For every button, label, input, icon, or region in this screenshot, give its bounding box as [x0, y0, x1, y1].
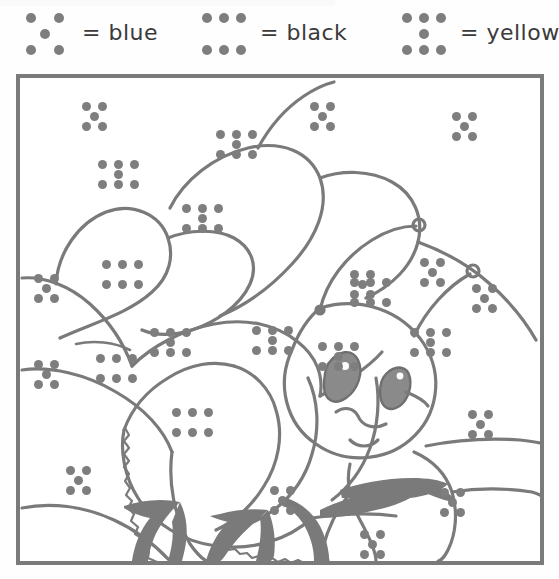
legend-entry-blue: = blue	[22, 4, 158, 60]
bee-antenna-right	[414, 274, 470, 336]
legend-label-blue: blue	[108, 20, 158, 45]
legend-dot	[419, 13, 429, 23]
legend-equals-black: = black	[260, 20, 347, 45]
legend-dot	[219, 45, 229, 55]
bee-eye-right	[380, 368, 410, 409]
legend-dot	[402, 13, 412, 23]
wing-vein-1	[216, 366, 280, 530]
bee-body-right	[414, 452, 455, 561]
worksheet-page: = blue = black = yell	[0, 0, 559, 579]
wing-vein-2	[234, 378, 317, 528]
legend-dot	[54, 45, 64, 55]
petal-edge-left-mid	[22, 278, 132, 366]
petal-outline-upper-left	[56, 208, 171, 338]
petal-edge-left-lower	[22, 369, 172, 452]
legend-dot	[219, 13, 229, 23]
bee-eye-left	[324, 352, 360, 401]
legend-dot	[436, 45, 446, 55]
bee-body-lower-band	[452, 489, 540, 495]
legend-dot	[236, 45, 246, 55]
legend-dot	[419, 29, 429, 39]
legend-equals-yellow: = yellow	[460, 20, 559, 45]
legend-dot	[54, 13, 64, 23]
six-dot-pattern-icon	[200, 7, 252, 57]
petal-edge-upper-right	[418, 242, 536, 340]
legend-label-yellow: yellow	[486, 20, 559, 45]
bee-head-outline	[284, 304, 435, 458]
bee-cheek-line	[406, 392, 428, 406]
legend-dot	[202, 45, 212, 55]
bee-line-art	[20, 78, 540, 561]
bee-eye-right-highlight	[397, 373, 404, 380]
bee-antenna-base-left	[316, 306, 324, 314]
legend-dot	[436, 13, 446, 23]
legend-dot	[236, 13, 246, 23]
wing-upper-outline	[124, 363, 234, 430]
legend-equals-blue: = blue	[82, 20, 158, 45]
legend-dot	[402, 45, 412, 55]
bee-leg-middle	[282, 498, 329, 561]
legend-dot	[40, 29, 50, 39]
color-key-legend: = blue = black = yell	[0, 0, 559, 70]
legend-dot	[419, 45, 429, 55]
coloring-picture-frame	[16, 74, 544, 565]
seven-dot-pattern-icon	[400, 7, 452, 57]
legend-entry-yellow: = yellow	[400, 4, 559, 60]
legend-entry-black: = black	[200, 4, 347, 60]
legend-dot	[26, 45, 36, 55]
petal-outline-upper-right	[320, 172, 420, 298]
legend-dot	[202, 13, 212, 23]
petal-edge-top	[258, 82, 334, 148]
five-dot-pattern-icon	[22, 7, 74, 57]
bee-eye-left-highlight	[341, 362, 349, 370]
legend-label-black: black	[286, 20, 347, 45]
legend-dot	[26, 13, 36, 23]
bee-back-band	[426, 439, 540, 446]
